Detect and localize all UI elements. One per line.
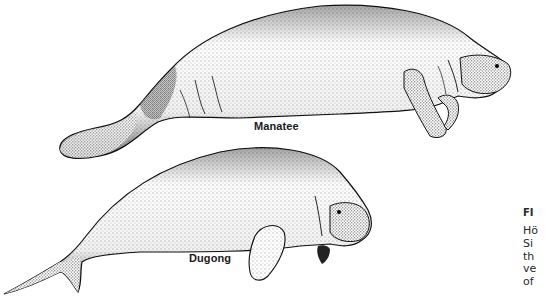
- document-page: Manatee Dugong FI Hö Si th ve of: [0, 0, 552, 302]
- manatee-label: Manatee: [254, 120, 299, 132]
- caption-title: FI: [523, 207, 552, 219]
- dugong-drawing: [4, 148, 371, 294]
- manatee-drawing: [60, 5, 511, 158]
- figure-caption: FI Hö Si th ve of: [523, 207, 552, 289]
- dugong-label: Dugong: [189, 252, 231, 264]
- caption-line: Hö: [523, 225, 552, 238]
- caption-line: of: [523, 276, 552, 289]
- caption-line: Si: [523, 238, 552, 251]
- sirenian-illustration: [0, 0, 552, 302]
